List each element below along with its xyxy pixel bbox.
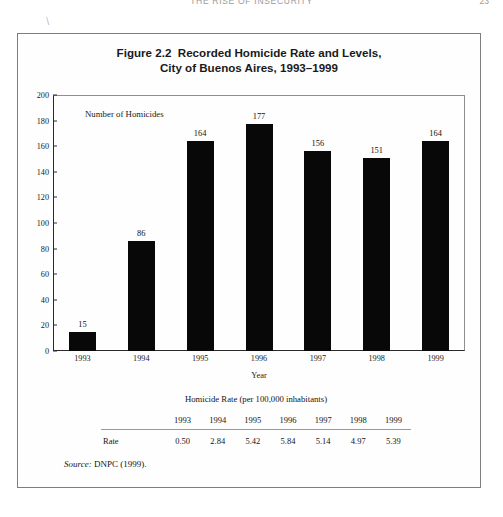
y-axis-tick-label: 180 <box>23 116 49 125</box>
x-axis-tick-label: 1998 <box>350 354 404 363</box>
bar-chart-plot: 020406080100120140160180200 158616417715… <box>53 95 465 351</box>
page-number: 23 <box>480 0 489 6</box>
y-axis-tick-mark <box>53 299 57 300</box>
table-cell: 5.42 <box>235 430 270 451</box>
bar <box>363 158 390 351</box>
y-axis-tick-mark <box>53 223 57 224</box>
y-axis-tick-label: 200 <box>23 91 49 100</box>
y-axis-tick-label: 40 <box>23 295 49 304</box>
table-column-header: 1998 <box>341 412 376 430</box>
bar <box>187 141 214 351</box>
y-axis-tick-label: 100 <box>23 219 49 228</box>
table-row-header: Rate <box>101 430 165 451</box>
y-axis-tick-mark <box>53 171 57 172</box>
x-axis-tick-label: 1993 <box>55 354 109 363</box>
bar-value-label: 177 <box>238 112 280 121</box>
bar-value-label: 151 <box>356 146 398 155</box>
y-axis-tick-label: 140 <box>23 167 49 176</box>
y-axis-tick-mark <box>53 248 57 249</box>
bar-value-label: 156 <box>297 139 339 148</box>
table-cell: 5.84 <box>270 430 305 451</box>
y-axis-tick-label: 60 <box>23 270 49 279</box>
source-line: Source: DNPC (1999). <box>64 459 146 469</box>
x-axis-tick-label: 1995 <box>173 354 227 363</box>
y-axis-tick-label: 160 <box>23 142 49 151</box>
table-column-header: 1994 <box>200 412 235 430</box>
x-axis-tick-label: 1999 <box>409 354 463 363</box>
bar <box>128 241 155 351</box>
table-corner-cell <box>101 412 165 430</box>
y-axis-tick-mark <box>53 146 57 147</box>
source-label: Source: <box>64 459 92 469</box>
running-head-title: THE RISE OF INSECURITY <box>0 0 503 6</box>
y-axis-tick-label: 120 <box>23 193 49 202</box>
table-cell: 4.97 <box>341 430 376 451</box>
figure-caption-line-1: Figure 2.2 Recorded Homicide Rate and Le… <box>18 45 480 60</box>
x-axis-tick-label: 1994 <box>114 354 168 363</box>
table-body: Rate0.502.845.425.845.144.975.39 <box>101 430 411 451</box>
x-axis-tick-label: 1997 <box>291 354 345 363</box>
table-column-header: 1999 <box>376 412 411 430</box>
table-column-header: 1995 <box>235 412 270 430</box>
bar-value-label: 164 <box>179 129 221 138</box>
x-axis-title: Year <box>53 371 465 380</box>
y-axis-tick-label: 0 <box>23 347 49 356</box>
y-axis-tick-label: 80 <box>23 244 49 253</box>
table-column-header: 1993 <box>165 412 200 430</box>
homicide-rate-table: Homicide Rate (per 100,000 inhabitants) … <box>101 394 411 450</box>
running-head: THE RISE OF INSECURITY 23 <box>0 0 503 8</box>
bar-value-label: 15 <box>61 320 103 329</box>
y-axis-tick-label: 20 <box>23 321 49 330</box>
rate-table: 1993199419951996199719981999 Rate0.502.8… <box>101 412 411 450</box>
y-axis-tick-mark <box>53 351 57 352</box>
y-axis-tick-mark <box>53 325 57 326</box>
figure-caption: Figure 2.2 Recorded Homicide Rate and Le… <box>18 45 480 75</box>
series-annotation-label: Number of Homicides <box>85 109 164 119</box>
table-title: Homicide Rate (per 100,000 inhabitants) <box>101 394 411 404</box>
y-axis-tick-mark <box>53 197 57 198</box>
table-column-header: 1996 <box>270 412 305 430</box>
stray-pen-mark: \ <box>45 14 49 29</box>
bar-value-label: 86 <box>120 229 162 238</box>
bar <box>422 141 449 351</box>
table-cell: 2.84 <box>200 430 235 451</box>
table-row: Rate0.502.845.425.845.144.975.39 <box>101 430 411 451</box>
table-cell: 0.50 <box>165 430 200 451</box>
y-axis-tick-mark <box>53 274 57 275</box>
bar <box>69 332 96 351</box>
bar <box>304 151 331 351</box>
table-head: 1993199419951996199719981999 <box>101 412 411 430</box>
figure-box: Figure 2.2 Recorded Homicide Rate and Le… <box>17 33 481 488</box>
table-header-row: 1993199419951996199719981999 <box>101 412 411 430</box>
source-text: DNPC (1999). <box>92 459 147 469</box>
y-axis-tick-mark <box>53 120 57 121</box>
table-cell: 5.14 <box>306 430 341 451</box>
table-column-header: 1997 <box>306 412 341 430</box>
y-axis-tick-mark <box>53 95 57 96</box>
x-axis-tick-label: 1996 <box>232 354 286 363</box>
figure-caption-line-2: City of Buenos Aires, 1993–1999 <box>18 60 480 75</box>
bar <box>246 124 273 351</box>
bar-value-label: 164 <box>415 129 457 138</box>
table-cell: 5.39 <box>376 430 411 451</box>
